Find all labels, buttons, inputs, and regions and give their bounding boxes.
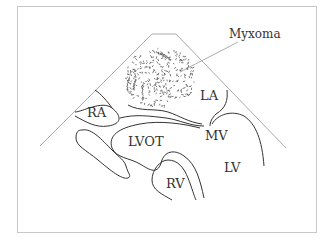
myxoma-mass <box>125 48 194 107</box>
label-ra: RA <box>87 105 107 120</box>
label-lvot: LVOT <box>128 134 164 149</box>
label-lv: LV <box>224 160 241 175</box>
rvot-loop-outline <box>76 130 130 178</box>
label-myxoma: Myxoma <box>229 27 281 41</box>
label-mv: MV <box>205 128 228 143</box>
sector-outline <box>40 34 286 148</box>
label-la: LA <box>200 88 219 103</box>
echo-diagram: Myxoma LA RA LVOT MV LV RV <box>0 0 327 243</box>
label-rv: RV <box>166 176 185 191</box>
la-floor-line-1 <box>128 105 202 124</box>
